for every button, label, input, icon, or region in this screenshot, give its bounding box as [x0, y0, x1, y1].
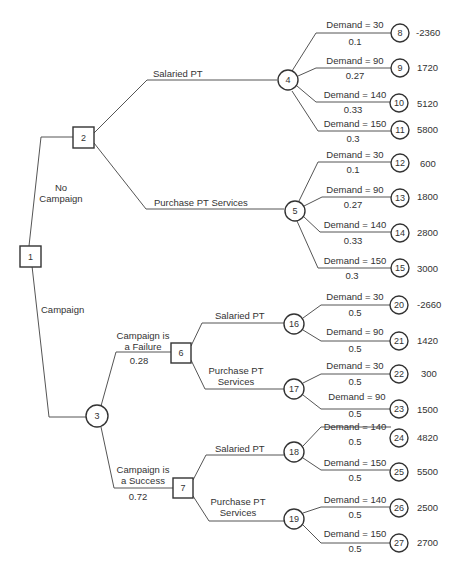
demand-label: Demand = 140: [324, 494, 387, 505]
demand-label: Demand = 150: [324, 528, 387, 539]
decision-node-1: 1: [20, 246, 41, 267]
payoff: 5800: [417, 124, 438, 135]
terminal-node-8: 8: [391, 24, 409, 42]
chance-node-17: 17: [284, 379, 304, 399]
probability: 0.3: [346, 133, 359, 144]
label-campaign: Campaign: [41, 304, 84, 315]
node-label: 20: [394, 300, 404, 310]
probability: 0.27: [344, 199, 363, 210]
chance-node-16: 16: [284, 314, 304, 334]
node-label: 10: [394, 98, 404, 108]
probability: 0.5: [348, 376, 361, 387]
node-label: 15: [395, 263, 405, 273]
prob-success: 0.72: [129, 491, 148, 502]
decision-node-2: 2: [73, 127, 94, 148]
node-label: 5: [292, 206, 297, 216]
node-label: 13: [395, 193, 405, 203]
demand-label: Demand = 150: [324, 118, 387, 129]
edge-6-16: [191, 323, 284, 346]
node-label: 4: [285, 75, 290, 85]
node-label: 24: [394, 433, 404, 443]
payoff: 5500: [417, 466, 438, 477]
edge-7-18: [193, 455, 284, 480]
node-label: 21: [394, 336, 404, 346]
label-purchase-7-1: Purchase PT: [211, 496, 266, 507]
terminal-node-27: 27: [390, 534, 408, 552]
demand-label: Demand = 140: [324, 89, 387, 100]
edge-16-20: [303, 305, 391, 318]
label-purchase-7-2: Services: [220, 507, 257, 518]
demand-label: Demand = 90: [328, 391, 385, 402]
edge-2-salaried: [94, 80, 277, 133]
demand-label: Demand = 30: [326, 149, 383, 160]
probability: 0.27: [346, 70, 365, 81]
demand-label: Demand = 30: [326, 291, 383, 302]
payoff: 2500: [417, 502, 438, 513]
payoff: 4820: [417, 432, 438, 443]
payoff: -2660: [417, 299, 441, 310]
node-label: 3: [94, 411, 99, 421]
chance-node-18: 18: [284, 442, 304, 462]
label-no-campaign-1: No: [55, 182, 67, 193]
payoff: -2360: [416, 27, 440, 38]
demand-label: Demand = 30: [326, 360, 383, 371]
terminal-node-14: 14: [391, 224, 409, 242]
node-label: 19: [289, 514, 299, 524]
terminal-node-13: 13: [391, 189, 409, 207]
chance-nodes: 3 4 5 16 17 18 19: [86, 70, 305, 529]
terminal-nodes: 8 9 10 11 12 13 14 15 20 21 22 23 24 25 …: [390, 24, 409, 552]
label-purchase-6-1: Purchase PT: [209, 365, 264, 376]
node-label: 7: [180, 483, 185, 493]
payoff-values: -2360 1720 5120 5800 600 1800 2800 3000 …: [416, 27, 441, 548]
probability: 0.5: [348, 408, 361, 419]
terminal-node-23: 23: [390, 400, 408, 418]
payoff: 1800: [417, 191, 438, 202]
probability: 0.5: [348, 307, 361, 318]
payoff: 3000: [417, 263, 438, 274]
label-salaried-pt-6: Salaried PT: [215, 310, 265, 321]
terminal-node-21: 21: [390, 332, 408, 350]
label-success-2: a Success: [121, 475, 165, 486]
node-label: 18: [289, 447, 299, 457]
terminal-node-22: 22: [390, 365, 408, 383]
chance-node-5: 5: [285, 201, 305, 221]
payoff: 300: [421, 368, 437, 379]
node-label: 12: [395, 158, 405, 168]
demand-labels: Demand = 30 0.1 Demand = 90 0.27 Demand …: [324, 19, 387, 554]
probability: 0.5: [348, 543, 361, 554]
payoff: 2800: [417, 227, 438, 238]
label-salaried-pt-top: Salaried PT: [153, 68, 203, 79]
payoff: 1720: [417, 62, 438, 73]
demand-label: Demand = 140: [324, 219, 387, 230]
probability: 0.33: [344, 104, 363, 115]
terminal-node-12: 12: [391, 154, 409, 172]
decision-tree: No Campaign Campaign Salaried PT Purchas…: [0, 0, 454, 569]
node-label: 2: [81, 133, 86, 143]
label-failure-2: a Failure: [125, 341, 162, 352]
node-label: 26: [394, 503, 404, 513]
label-purchase-6-2: Services: [218, 376, 255, 387]
node-label: 8: [397, 28, 402, 38]
node-label: 14: [395, 228, 405, 238]
chance-node-19: 19: [284, 509, 304, 529]
demand-label: Demand = 90: [326, 326, 383, 337]
node-label: 22: [394, 369, 404, 379]
probability: 0.5: [348, 472, 361, 483]
terminal-node-20: 20: [390, 296, 408, 314]
terminal-node-25: 25: [390, 463, 408, 481]
label-success-1: Campaign is: [117, 464, 170, 475]
decision-node-6: 6: [171, 343, 191, 363]
demand-label: Demand = 90: [326, 184, 383, 195]
prob-failure: 0.28: [130, 355, 149, 366]
probability: 0.5: [348, 436, 361, 447]
decision-node-7: 7: [173, 478, 193, 498]
payoff: 2700: [417, 537, 438, 548]
terminal-node-9: 9: [391, 59, 409, 77]
demand-label: Demand = 140: [324, 421, 387, 432]
label-purchase-pt-top: Purchase PT Services: [154, 197, 248, 208]
probability: 0.33: [344, 235, 363, 246]
node-label: 25: [394, 467, 404, 477]
edge-campaign: [32, 266, 86, 417]
probability: 0.3: [345, 270, 358, 281]
label-failure-1: Campaign is: [117, 330, 170, 341]
